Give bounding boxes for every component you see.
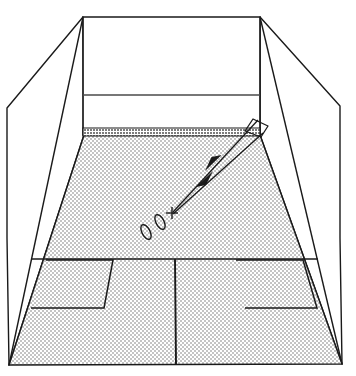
front-wall xyxy=(83,17,260,135)
squash-court-diagram xyxy=(0,0,356,376)
tin-board xyxy=(83,128,260,136)
centre-line xyxy=(175,259,176,365)
court-drawing-canvas xyxy=(0,0,356,376)
